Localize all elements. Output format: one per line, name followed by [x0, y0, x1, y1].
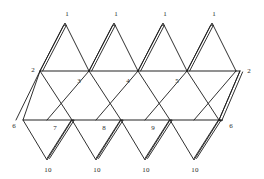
face-label-7: 7	[53, 124, 57, 132]
vertex-label-bottom-4: 10	[191, 166, 198, 174]
face-label-3: 3	[77, 77, 81, 85]
vertex-label-lower-right-6: 6	[229, 122, 233, 130]
vertex-label-top-2: 1	[114, 10, 118, 18]
icosahedron-net-figure: 1 1 1 1 2 3 4 5 2 6 7 8 9 6 10 10 10 10	[0, 0, 264, 179]
vertex-label-bottom-3: 10	[142, 166, 149, 174]
vertex-label-upper-right-2: 2	[247, 67, 251, 75]
face-label-4: 4	[126, 77, 130, 85]
vertex-label-bottom-2: 10	[93, 166, 100, 174]
face-label-8: 8	[102, 124, 106, 132]
face-label-5: 5	[175, 77, 179, 85]
vertex-label-top-3: 1	[163, 10, 167, 18]
vertex-label-bottom-1: 10	[44, 166, 51, 174]
vertex-label-upper-left-2: 2	[31, 66, 35, 74]
vertex-label-lower-left-6: 6	[12, 122, 16, 130]
face-label-9: 9	[151, 124, 155, 132]
vertex-label-top-4: 1	[212, 10, 216, 18]
figure-background	[0, 0, 264, 179]
vertex-label-top-1: 1	[65, 10, 69, 18]
net-diagram	[0, 0, 264, 179]
